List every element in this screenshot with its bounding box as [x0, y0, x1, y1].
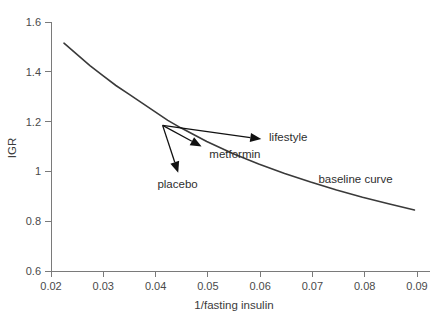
y-tick-label: 1.2 [26, 116, 41, 128]
x-tick-label: 0.02 [40, 280, 61, 292]
lifestyle-arrow-head [250, 133, 262, 142]
y-tick-label: 0.8 [26, 215, 41, 227]
y-axis: 0.6 0.8 1 1.2 1.4 1.6 IGR [6, 16, 51, 277]
x-tick-label: 0.09 [406, 280, 427, 292]
x-axis-tick-labels: 0.02 0.03 0.04 0.05 0.06 0.07 0.08 0.09 [40, 280, 427, 292]
x-axis-ticks [51, 271, 417, 277]
annotation-label-metformin: metformin [209, 148, 260, 160]
x-tick-label: 0.07 [302, 280, 323, 292]
y-tick-label: 1.6 [26, 16, 41, 28]
y-tick-label: 0.6 [26, 265, 41, 277]
x-tick-label: 0.03 [93, 280, 114, 292]
x-axis-title: 1/fasting insulin [194, 299, 273, 311]
baseline-curve [64, 43, 414, 210]
x-axis: 0.02 0.03 0.04 0.05 0.06 0.07 0.08 0.09 … [40, 271, 430, 311]
y-axis-title: IGR [6, 138, 18, 158]
annotation-label-lifestyle: lifestyle [269, 131, 307, 143]
chart-figure: 0.6 0.8 1 1.2 1.4 1.6 IGR 0. [0, 0, 444, 321]
annotation-label-baseline-curve: baseline curve [318, 173, 392, 185]
y-axis-ticks [45, 22, 51, 271]
lifestyle-arrow-line [163, 125, 251, 137]
x-tick-label: 0.05 [197, 280, 218, 292]
placebo-arrow-head [170, 161, 179, 173]
y-tick-label: 1 [35, 165, 41, 177]
chart-svg: 0.6 0.8 1 1.2 1.4 1.6 IGR 0. [0, 0, 444, 321]
x-tick-label: 0.06 [249, 280, 270, 292]
y-tick-label: 1.4 [26, 66, 41, 78]
annotation-label-placebo: placebo [157, 178, 197, 190]
y-axis-tick-labels: 0.6 0.8 1 1.2 1.4 1.6 [26, 16, 41, 277]
x-tick-label: 0.04 [145, 280, 166, 292]
x-tick-label: 0.08 [354, 280, 375, 292]
